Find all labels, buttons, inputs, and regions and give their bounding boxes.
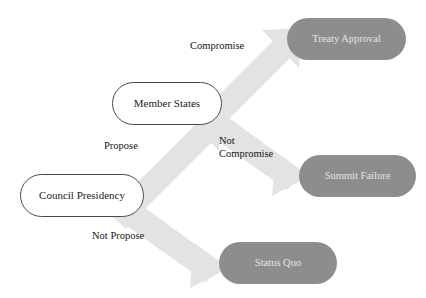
edge-label-compromise: Compromise [190, 39, 244, 52]
node-member-states[interactable]: Member States [112, 82, 222, 125]
edge-label-not-compromise: Not Compromise [219, 134, 273, 160]
node-label: Status Quo [255, 257, 301, 269]
node-label: Summit Failure [325, 170, 391, 182]
node-label: Member States [134, 97, 200, 109]
edge-label-propose: Propose [104, 139, 138, 152]
node-label: Treaty Approval [312, 33, 381, 45]
node-treaty-approval[interactable]: Treaty Approval [287, 18, 406, 60]
edge-label-not-propose: Not Propose [92, 229, 144, 242]
node-summit-failure[interactable]: Summit Failure [299, 155, 416, 197]
diagram-canvas: Council Presidency Member States Treaty … [0, 0, 426, 298]
node-status-quo[interactable]: Status Quo [219, 242, 337, 284]
node-label: Council Presidency [39, 189, 125, 201]
node-council-presidency[interactable]: Council Presidency [20, 174, 144, 217]
